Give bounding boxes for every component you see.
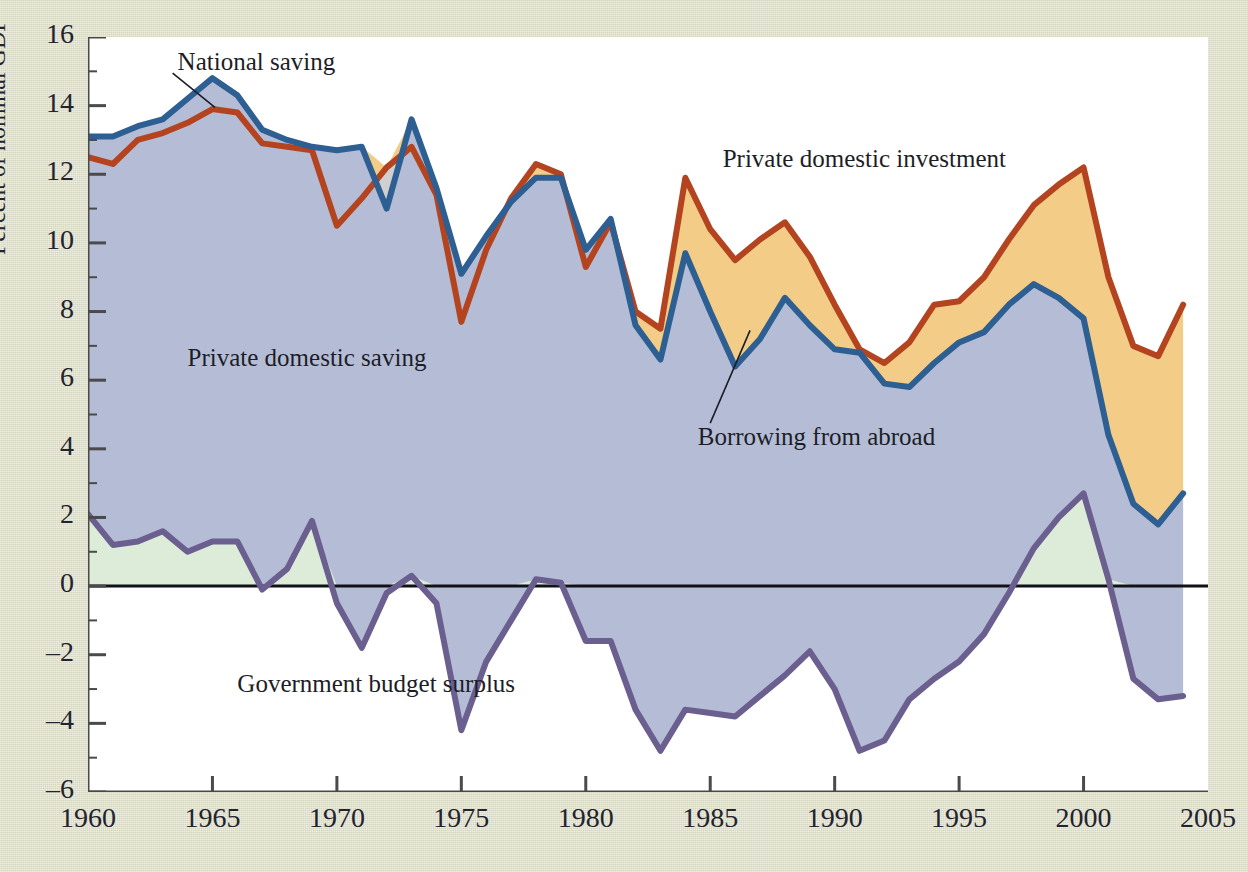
x-tick-1995: 1995 xyxy=(914,802,1004,834)
annotation-national-saving: National saving xyxy=(178,48,336,76)
y-tick-12: 12 xyxy=(18,155,74,187)
y-tick-0: 0 xyxy=(18,567,74,599)
annotation-borrowing-from-abroad: Borrowing from abroad xyxy=(698,423,935,451)
y-tick-8: 8 xyxy=(18,293,74,325)
chart-stage: Percent of nominal GDP 1614121086420–2–4… xyxy=(0,0,1248,872)
x-tick-1960: 1960 xyxy=(43,802,133,834)
y-tick-6: 6 xyxy=(18,361,74,393)
y-tick-2: 2 xyxy=(18,498,74,530)
y-tick-neg6: –6 xyxy=(18,773,74,805)
annotation-government-budget-surplus: Government budget surplus xyxy=(237,670,515,698)
x-tick-1975: 1975 xyxy=(416,802,506,834)
annotation-private-domestic-investment: Private domestic investment xyxy=(723,145,1006,173)
x-tick-1985: 1985 xyxy=(665,802,755,834)
y-tick-10: 10 xyxy=(18,224,74,256)
y-tick-4: 4 xyxy=(18,430,74,462)
x-tick-1965: 1965 xyxy=(167,802,257,834)
y-tick-16: 16 xyxy=(18,18,74,50)
x-tick-1990: 1990 xyxy=(790,802,880,834)
x-tick-1970: 1970 xyxy=(292,802,382,834)
y-tick-14: 14 xyxy=(18,87,74,119)
x-tick-2000: 2000 xyxy=(1039,802,1129,834)
annotation-private-domestic-saving: Private domestic saving xyxy=(188,344,427,372)
x-tick-2005: 2005 xyxy=(1163,802,1248,834)
y-tick-neg2: –2 xyxy=(18,636,74,668)
x-tick-1980: 1980 xyxy=(541,802,631,834)
private-domestic-saving-area xyxy=(88,78,1183,751)
y-axis-title: Percent of nominal GDP xyxy=(0,18,11,255)
y-tick-neg4: –4 xyxy=(18,704,74,736)
